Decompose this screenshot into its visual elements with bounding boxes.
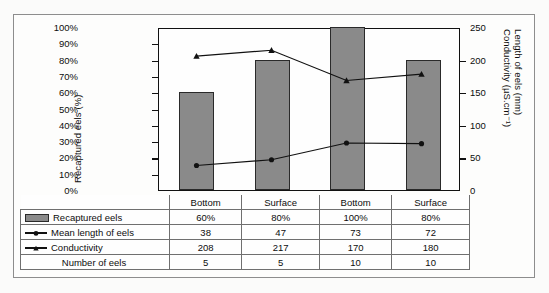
- left-tick-mark: [152, 142, 158, 143]
- left-tick-label: 10%: [38, 170, 78, 180]
- table-value-cell: 180: [392, 240, 470, 255]
- legend-cell: Number of eels: [21, 255, 170, 270]
- table-value-cell: 170: [319, 240, 391, 255]
- left-tick-mark: [152, 44, 158, 45]
- right-tick-label: 0: [470, 186, 510, 196]
- data-table: BottomSurfaceBottomSurfaceRecaptured eel…: [20, 195, 470, 270]
- right-tick-label: 250: [470, 23, 510, 33]
- line-series-group: [159, 29, 459, 190]
- table-value-cell: 10: [319, 255, 391, 270]
- table-value-cell: 47: [242, 225, 320, 240]
- legend-cell: Conductivity: [21, 240, 170, 255]
- table-value-cell: 60%: [170, 210, 242, 225]
- right-tick-mark: [460, 126, 466, 127]
- table-value-cell: 100%: [319, 210, 391, 225]
- legend-cell: Recaptured eels: [21, 210, 170, 225]
- marker-circle: [269, 157, 274, 162]
- table-row: Number of eels551010: [21, 255, 470, 270]
- right-tick-mark: [460, 93, 466, 94]
- table-row: Recaptured eels60%80%100%80%: [21, 210, 470, 225]
- table-row: Conductivity208217170180: [21, 240, 470, 255]
- right-tick-label: 50: [470, 153, 510, 163]
- left-tick-mark: [152, 110, 158, 111]
- left-tick-mark: [152, 158, 158, 159]
- summary-table: BottomSurfaceBottomSurfaceRecaptured eel…: [20, 195, 470, 270]
- left-tick-mark: [152, 126, 158, 127]
- table-value-cell: 72: [392, 225, 470, 240]
- right-tick-label: 200: [470, 56, 510, 66]
- legend-label: Mean length of eels: [51, 227, 134, 238]
- line-circle: [197, 143, 422, 166]
- right-tick-label: 100: [470, 121, 510, 131]
- table-value-cell: 217: [242, 240, 320, 255]
- line-legend-icon: [25, 244, 47, 252]
- table-header-cell: Bottom: [319, 195, 391, 210]
- plot-frame: [158, 28, 460, 191]
- marker-circle: [419, 141, 424, 146]
- marker-circle: [344, 140, 349, 145]
- marker-circle: [194, 163, 199, 168]
- left-tick-mark: [152, 61, 158, 62]
- left-tick-label: 20%: [38, 153, 78, 163]
- left-tick-mark: [152, 175, 158, 176]
- table-value-cell: 73: [319, 225, 391, 240]
- figure-panel: Recaptured eels (%) Conductivity (µS.cm⁻…: [13, 14, 535, 278]
- left-tick-label: 80%: [38, 56, 78, 66]
- triangle-marker-icon: [33, 245, 43, 253]
- left-tick-label: 40%: [38, 121, 78, 131]
- table-header-cell: Surface: [242, 195, 320, 210]
- table-value-cell: 5: [242, 255, 320, 270]
- bar-swatch-icon: [25, 214, 49, 222]
- right-tick-mark: [460, 61, 466, 62]
- table-value-cell: 10: [392, 255, 470, 270]
- right-tick-mark: [460, 158, 466, 159]
- table-value-cell: 80%: [242, 210, 320, 225]
- legend-label: Conductivity: [51, 242, 103, 253]
- table-value-cell: 38: [170, 225, 242, 240]
- left-tick-label: 50%: [38, 105, 78, 115]
- left-tick-mark: [152, 77, 158, 78]
- table-value-cell: 5: [170, 255, 242, 270]
- right-axis-title-conductivity: Conductivity (µS.cm⁻¹): [502, 29, 513, 127]
- table-header-cell: Bottom: [170, 195, 242, 210]
- right-axis-title-length: Length of eels (mm): [513, 29, 524, 115]
- left-tick-mark: [152, 93, 158, 94]
- table-header-row: BottomSurfaceBottomSurface: [21, 195, 470, 210]
- line-legend-icon: [25, 229, 47, 237]
- table-value-cell: 208: [170, 240, 242, 255]
- table-header-cell: Surface: [392, 195, 470, 210]
- legend-label: Recaptured eels: [53, 212, 122, 223]
- table-value-cell: 80%: [392, 210, 470, 225]
- right-tick-label: 150: [470, 88, 510, 98]
- chart-area: Recaptured eels (%) Conductivity (µS.cm⁻…: [14, 15, 534, 195]
- legend-cell: Mean length of eels: [21, 225, 170, 240]
- left-tick-label: 100%: [38, 23, 78, 33]
- left-tick-label: 60%: [38, 88, 78, 98]
- left-tick-label: 30%: [38, 137, 78, 147]
- left-tick-label: 70%: [38, 72, 78, 82]
- line-triangle: [197, 50, 422, 80]
- table-corner-cell: [21, 195, 170, 210]
- table-row: Mean length of eels38477372: [21, 225, 470, 240]
- legend-label: Number of eels: [62, 257, 126, 268]
- circle-marker-icon: [33, 230, 43, 238]
- left-tick-label: 90%: [38, 39, 78, 49]
